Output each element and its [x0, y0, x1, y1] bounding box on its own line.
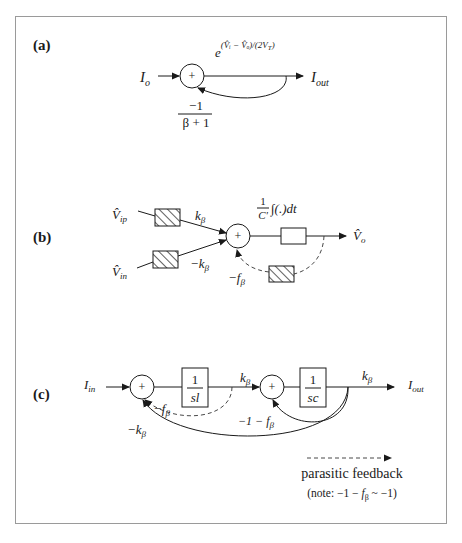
panel-a: (a) Io + e(V̂ᵢ − V̂ₒ)/(2VT) Iout −1 β + … [33, 37, 329, 130]
sum1-sign: + [139, 380, 146, 394]
gain-block-pos [155, 209, 180, 226]
outer-feedback-label: −kβ [127, 422, 147, 439]
inner-feedback-label: −1 − fβ [238, 414, 275, 430]
vin-line [137, 262, 153, 268]
gain2-label: kβ [362, 368, 373, 385]
block-diagram-figure: (a) Io + e(V̂ᵢ − V̂ₒ)/(2VT) Iout −1 β + … [0, 0, 462, 543]
output-iout: Iout [310, 69, 329, 88]
integrator-num: 1 [260, 195, 266, 207]
sum2-sign: + [269, 380, 276, 394]
legend: parasitic feedback (note: −1 − fβ ~ −1) [301, 458, 402, 502]
gain-block-neg [153, 251, 178, 268]
block2-num: 1 [310, 372, 317, 387]
neg-to-sum-arrow [178, 240, 226, 256]
output-vo: V̂o [353, 228, 366, 245]
integrator-den: C' [258, 209, 268, 221]
legend-label: parasitic feedback [301, 466, 402, 481]
parasitic-gain-label: −fβ [153, 401, 170, 418]
integrator-block [281, 228, 306, 244]
sum-sign: + [235, 229, 242, 243]
output-iout: Iout [407, 377, 424, 394]
feedback-num: −1 [189, 98, 203, 113]
block1-num: 1 [192, 372, 199, 387]
vip-line [138, 211, 155, 216]
input-vin: V̂in [112, 264, 127, 281]
integrator-expr: ∫(.)dt [270, 201, 297, 217]
panel-c: (c) Iin + 1 sl kβ + 1 sc kβ Iout −1 − fβ [33, 368, 424, 439]
forward-gain-exp: e(V̂ᵢ − V̂ₒ)/(2VT) [215, 40, 275, 60]
feedback-den: β + 1 [183, 115, 210, 130]
parasitic-gain-label: −fβ [228, 270, 245, 287]
feedback-path [198, 76, 286, 98]
panel-b: (b) V̂ip kβ V̂in −kβ + 1 C' ∫(.)dt V̂o −… [33, 195, 366, 287]
block1-den: sl [191, 390, 200, 405]
block2-den: sc [308, 390, 319, 405]
gain-kbeta-pos: kβ [195, 208, 206, 225]
sum-sign: + [189, 69, 196, 83]
gain1-label: kβ [240, 370, 251, 387]
panel-b-label: (b) [33, 229, 51, 246]
input-iin: Iin [83, 377, 96, 394]
panel-c-label: (c) [33, 386, 50, 403]
panel-a-label: (a) [33, 37, 51, 54]
parasitic-gain-block [269, 266, 294, 282]
legend-note: (note: −1 − fβ ~ −1) [307, 487, 397, 502]
gain-kbeta-neg: −kβ [190, 256, 210, 273]
input-vip: V̂ip [112, 207, 127, 224]
parasitic-to-sum [237, 250, 269, 272]
parasitic-feedback-path [294, 236, 324, 274]
input-io: Io [139, 69, 150, 88]
